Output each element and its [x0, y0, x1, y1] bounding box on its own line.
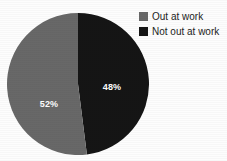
pie-chart-svg: [7, 13, 149, 155]
legend-item-out-at-work[interactable]: Out at work: [139, 9, 227, 24]
legend-label-out-at-work: Out at work: [152, 11, 203, 22]
legend-swatch-icon-not-out-at-work: [139, 27, 148, 36]
legend-label-not-out-at-work: Not out at work: [152, 26, 219, 37]
chart-legend: Out at work Not out at work: [139, 9, 227, 39]
pie-slice-out-at-work[interactable]: [7, 13, 87, 155]
pie-chart-plot-area: 48% 52%: [7, 13, 149, 155]
legend-swatch-icon-out-at-work: [139, 12, 148, 21]
pie-chart-figure: 48% 52% Out at work Not out at work: [0, 0, 227, 161]
legend-item-not-out-at-work[interactable]: Not out at work: [139, 24, 227, 39]
